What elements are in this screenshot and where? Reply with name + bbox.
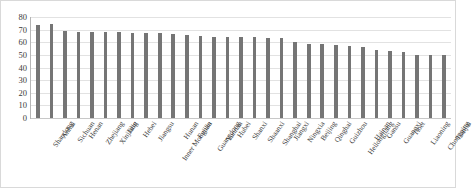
plot-area bbox=[31, 17, 451, 118]
x-tick-label-text: Jilin bbox=[126, 120, 139, 135]
bar bbox=[199, 36, 203, 118]
bar bbox=[36, 25, 40, 118]
bar bbox=[239, 37, 243, 118]
bar bbox=[226, 37, 230, 118]
bar bbox=[388, 51, 392, 118]
y-tick-label-30: 30 bbox=[3, 76, 27, 85]
y-tick-label-50: 50 bbox=[3, 51, 27, 60]
y-tick-label-70: 70 bbox=[3, 25, 27, 34]
bar bbox=[402, 52, 406, 118]
bar bbox=[348, 46, 352, 118]
x-tick-label-text: Tianjin bbox=[454, 120, 472, 142]
bar bbox=[361, 47, 365, 118]
x-tick-label-text: Anhui bbox=[60, 120, 77, 139]
y-tick-label-20: 20 bbox=[3, 89, 27, 98]
bar bbox=[415, 55, 419, 118]
bar bbox=[266, 38, 270, 118]
bar bbox=[334, 45, 338, 118]
bar bbox=[50, 24, 54, 118]
y-tick-label-0: 0 bbox=[3, 114, 27, 123]
bar bbox=[320, 44, 324, 118]
bar bbox=[280, 38, 284, 118]
bar bbox=[63, 31, 67, 118]
bar-series bbox=[31, 17, 451, 118]
x-tick-label: Jilin bbox=[127, 119, 140, 134]
bar bbox=[442, 55, 446, 118]
bar bbox=[429, 55, 433, 118]
y-tick-label-80: 80 bbox=[3, 13, 27, 22]
y-tick-label-60: 60 bbox=[3, 38, 27, 47]
bar bbox=[158, 33, 162, 118]
y-axis-tick-labels: 01020304050607080 bbox=[1, 17, 27, 118]
bar bbox=[185, 35, 189, 118]
bar bbox=[104, 32, 108, 118]
y-tick-label-10: 10 bbox=[3, 101, 27, 110]
bar bbox=[131, 33, 135, 118]
y-tick-label-40: 40 bbox=[3, 63, 27, 72]
bar bbox=[375, 50, 379, 118]
bar bbox=[117, 32, 121, 118]
bar bbox=[212, 37, 216, 118]
bar bbox=[253, 37, 257, 118]
bar bbox=[171, 34, 175, 118]
bar bbox=[90, 32, 94, 118]
x-axis-tick-labels: ShandongAnhuiSichuanHenanZhejiangXinjian… bbox=[31, 119, 451, 189]
bar bbox=[77, 32, 81, 118]
bar bbox=[293, 42, 297, 118]
x-tick-label: Tianjin bbox=[456, 119, 474, 141]
x-tick-label: Jiangsu bbox=[159, 119, 178, 141]
bar bbox=[144, 33, 148, 118]
bar bbox=[307, 44, 311, 118]
x-tick-label-text: Hebei bbox=[141, 120, 157, 139]
